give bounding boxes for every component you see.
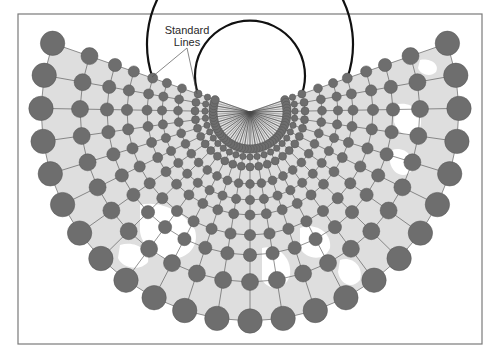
indicatrix-circle [167,146,176,155]
indicatrix-circle [204,122,210,128]
indicatrix-circle [213,152,221,160]
indicatrix-circle [245,210,255,220]
indicatrix-circle [309,233,322,246]
indicatrix-circle [348,105,358,115]
indicatrix-circle [255,162,263,170]
indicatrix-circle [242,274,259,291]
indicatrix-circle [292,108,298,114]
indicatrix-circle [273,191,282,200]
indicatrix-circle [334,286,358,310]
indicatrix-circle [178,84,187,93]
indicatrix-circle [355,161,366,172]
indicatrix-circle [237,162,245,170]
indicatrix-circle [361,66,372,77]
indicatrix-circle [202,115,208,121]
indicatrix-circle [295,265,312,282]
indicatrix-circle [142,105,152,115]
indicatrix-circle [199,241,212,254]
indicatrix-circle [203,166,212,175]
indicatrix-circle [203,101,209,107]
indicatrix-circle [157,106,166,115]
indicatrix-circle [412,101,429,118]
indicatrix-circle [308,169,317,178]
indicatrix-circle [287,129,293,135]
indicatrix-circle [246,163,254,171]
indicatrix-circle [197,132,205,140]
indicatrix-circle [229,160,237,168]
standard-lines-label-line1: Standard [165,24,210,36]
indicatrix-circle [178,233,191,246]
indicatrix-circle [402,48,419,65]
indicatrix-circle [330,133,339,142]
indicatrix-circle [213,205,223,215]
indicatrix-circle [300,98,308,106]
indicatrix-circle [177,129,186,138]
indicatrix-circle [174,106,183,115]
indicatrix-circle [345,178,356,189]
indicatrix-circle [317,158,326,167]
indicatrix-circle [319,179,329,189]
indicatrix-circle [89,179,106,196]
indicatrix-circle [194,158,203,167]
indicatrix-circle [147,138,157,148]
indicatrix-circle [314,129,323,138]
indicatrix-circle [333,120,342,129]
indicatrix-circle [306,190,316,200]
indicatrix-circle [447,96,471,120]
indicatrix-circle [218,191,227,200]
indicatrix-circle [201,140,209,148]
indicatrix-circle [283,223,294,234]
indicatrix-circle [74,74,91,91]
indicatrix-circle [123,85,134,96]
indicatrix-circle [174,158,183,167]
indicatrix-circle [303,298,327,322]
indicatrix-circle [204,94,210,100]
indicatrix-circle [317,95,326,104]
indicatrix-circle [362,268,386,292]
indicatrix-circle [244,229,255,240]
indicatrix-circle [114,268,138,292]
indicatrix-circle [123,124,134,135]
indicatrix-circle [141,206,154,219]
indicatrix-circle [175,95,184,104]
indicatrix-circle [297,158,306,167]
indicatrix-circle [324,146,333,155]
indicatrix-circle [292,199,302,209]
indicatrix-circle [343,138,353,148]
indicatrix-circle [221,157,229,165]
indicatrix-circle [38,162,62,186]
indicatrix-circle [144,178,155,189]
indicatrix-circle [134,161,145,172]
indicatrix-circle [192,98,200,106]
indicatrix-circle [366,124,377,135]
indicatrix-circle [372,169,385,182]
indicatrix-circle [153,153,163,163]
indicatrix-circle [215,271,232,288]
indicatrix-circle [142,286,166,310]
indicatrix-circle [89,246,113,270]
indicatrix-circle [360,188,373,201]
indicatrix-circle [394,179,411,196]
indicatrix-circle [29,96,53,120]
indicatrix-circle [205,186,214,195]
indicatrix-circle [366,85,377,96]
indicatrix-circle [184,190,194,200]
indicatrix-circle [232,194,241,203]
indicatrix-circle [246,180,255,189]
indicatrix-circle [211,96,219,104]
indicatrix-circle [238,309,262,333]
indicatrix-circle [159,221,172,234]
indicatrix-circle [333,106,342,115]
indicatrix-circle [159,92,168,101]
indicatrix-circle [254,153,260,159]
indicatrix-circle [259,194,268,203]
indicatrix-circle [207,129,213,135]
indicatrix-circle [223,176,232,185]
indicatrix-circle [409,74,426,91]
indicatrix-circle [301,216,312,227]
indicatrix-circle [274,145,280,151]
indicatrix-circle [207,147,215,155]
indicatrix-circle [171,205,182,216]
indicatrix-circle [268,176,277,185]
indicatrix-circle [268,271,285,288]
